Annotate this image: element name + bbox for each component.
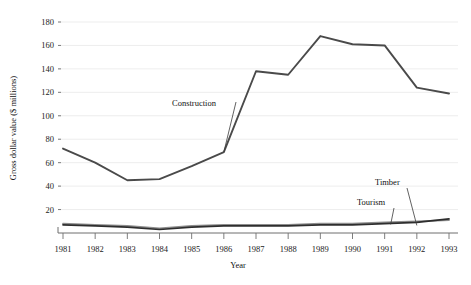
x-tick-label: 1988 — [280, 244, 297, 254]
y-tick-label: 120 — [41, 87, 54, 97]
series-group — [63, 36, 449, 229]
chart-container: 20406080100120140160180 1981198219831984… — [0, 0, 471, 285]
x-tick-label: 1993 — [441, 244, 458, 254]
x-axis-title: Year — [230, 260, 246, 270]
annotation-leader-lines — [224, 102, 417, 225]
x-tick-label: 1984 — [151, 244, 169, 254]
x-tick-labels-group: 1981198219831984198519861987198819891990… — [55, 244, 458, 254]
y-tick-label: 80 — [46, 134, 55, 144]
y-axis-title: Gross dollar value ($ millions) — [8, 76, 18, 181]
y-tick-label: 40 — [46, 181, 55, 191]
x-tick-label: 1991 — [376, 244, 393, 254]
y-tick-label: 100 — [41, 111, 54, 121]
x-tick-label: 1992 — [408, 244, 425, 254]
y-tick-label: 20 — [46, 205, 55, 215]
y-tick-marks-group — [58, 22, 61, 210]
x-tick-label: 1986 — [215, 244, 232, 254]
x-tick-label: 1981 — [55, 244, 72, 254]
line-chart: 20406080100120140160180 1981198219831984… — [0, 0, 471, 285]
leader-line-timber — [407, 188, 417, 225]
y-tick-label: 180 — [41, 17, 54, 27]
x-tick-label: 1990 — [344, 244, 361, 254]
x-tick-marks-group — [63, 233, 449, 239]
x-tick-label: 1987 — [248, 244, 265, 254]
y-tick-label: 160 — [41, 40, 54, 50]
x-axis-group — [58, 227, 458, 233]
y-tick-label: 60 — [46, 158, 55, 168]
y-tick-labels-group: 20406080100120140160180 — [41, 17, 54, 215]
x-tick-label: 1985 — [183, 244, 200, 254]
series-label-construction: Construction — [172, 98, 217, 108]
series-label-timber: Timber — [375, 177, 400, 187]
x-tick-label: 1983 — [119, 244, 136, 254]
y-tick-label: 140 — [41, 64, 54, 74]
x-tick-label: 1989 — [312, 244, 329, 254]
series-line-construction — [63, 36, 449, 180]
x-tick-label: 1982 — [87, 244, 104, 254]
series-label-tourism: Tourism — [357, 197, 386, 207]
